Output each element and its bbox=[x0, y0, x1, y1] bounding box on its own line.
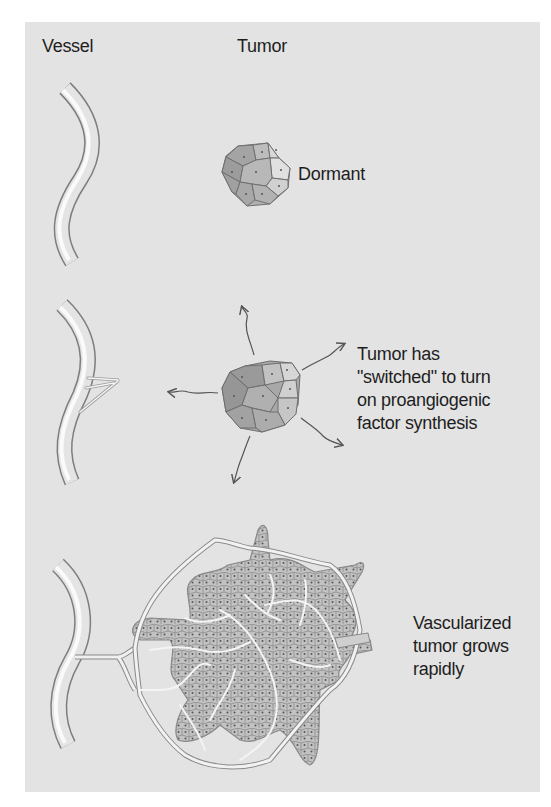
arrow-upright bbox=[302, 344, 344, 370]
arrow-downright bbox=[301, 418, 342, 445]
vessel-stage-2 bbox=[60, 305, 118, 482]
tumor-vascularized bbox=[75, 525, 372, 767]
column-header-tumor: Tumor bbox=[237, 35, 287, 58]
stage-label-line: tumor grows bbox=[413, 635, 511, 658]
stage-label-switched: Tumor has "switched" to turn on proangio… bbox=[357, 343, 490, 435]
stage-label-vascularized: Vascularized tumor grows rapidly bbox=[413, 612, 511, 681]
stage-label-line: Vascularized bbox=[413, 612, 511, 635]
stage-label-line: on proangiogenic bbox=[357, 389, 490, 412]
tumor-switched bbox=[222, 361, 300, 432]
stage-label-line: "switched" to turn bbox=[357, 366, 490, 389]
arrow-left bbox=[169, 391, 218, 393]
stage-label-line: rapidly bbox=[413, 658, 511, 681]
tumor-dormant bbox=[222, 143, 290, 206]
column-header-vessel: Vessel bbox=[42, 35, 93, 58]
arrow-up bbox=[242, 307, 254, 355]
stage-label-line: factor synthesis bbox=[357, 412, 490, 435]
stage-label-line: Tumor has bbox=[357, 343, 490, 366]
arrow-down bbox=[234, 436, 250, 482]
stage-label-line: Dormant bbox=[298, 163, 365, 186]
stage-label-dormant: Dormant bbox=[298, 163, 365, 186]
vessel-stage-1 bbox=[59, 88, 92, 262]
